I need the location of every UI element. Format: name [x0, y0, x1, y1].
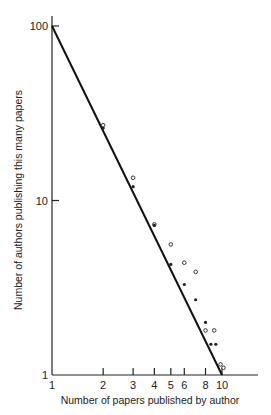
open-circle-point [219, 363, 223, 367]
x-tick-label: 2 [100, 379, 106, 391]
x-axis-title: Number of papers published by author [61, 394, 240, 406]
data-points [101, 123, 225, 369]
filled-dot-point [102, 126, 105, 129]
y-tick-label: 100 [30, 20, 48, 32]
open-circle-point [204, 329, 208, 333]
y-ticks: 110100 [30, 20, 59, 381]
open-circle-point [194, 270, 198, 274]
filled-dot-point [132, 185, 135, 188]
x-tick-label: 4 [151, 379, 157, 391]
y-axis-title: Number of authors publishing this many p… [12, 90, 24, 310]
open-circle-point [212, 329, 216, 333]
x-tick-label: 10 [216, 379, 228, 391]
x-tick-label: 6 [181, 379, 187, 391]
filled-dot-point [209, 343, 212, 346]
filled-dot-point [214, 343, 217, 346]
filled-dot-point [169, 263, 172, 266]
fit-line [52, 26, 222, 375]
trend-line [52, 26, 222, 375]
x-tick-label: 8 [202, 379, 208, 391]
x-tick-label: 3 [130, 379, 136, 391]
open-circle-point [182, 261, 186, 265]
filled-dot-point [204, 321, 207, 324]
chart: 123456810 110100 Number of papers publis… [0, 0, 271, 415]
x-ticks: 123456810 [49, 368, 228, 391]
axes [52, 16, 258, 375]
x-tick-label: 5 [168, 379, 174, 391]
filled-dot-point [194, 298, 197, 301]
y-tick-label: 1 [42, 369, 48, 381]
filled-dot-point [183, 283, 186, 286]
open-circle-point [101, 123, 105, 127]
open-circle-point [169, 243, 173, 247]
open-circle-point [222, 366, 226, 370]
y-tick-label: 10 [36, 195, 48, 207]
x-tick-label: 1 [49, 379, 55, 391]
open-circle-point [131, 176, 135, 180]
filled-dot-point [153, 224, 156, 227]
